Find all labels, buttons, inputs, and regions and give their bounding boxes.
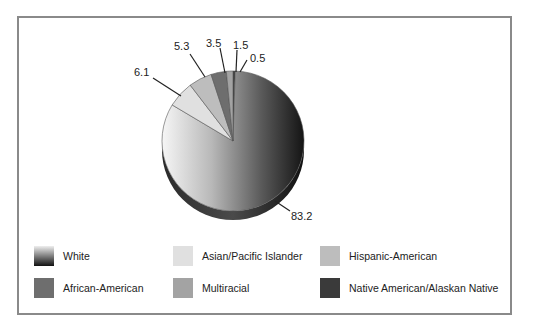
label-african: 3.5	[206, 37, 221, 49]
legend-item-asian: Asian/Pacific Islander	[173, 246, 302, 266]
legend-label: Multiracial	[202, 282, 249, 294]
legend-swatch-native	[320, 278, 340, 298]
legend-swatch-asian	[173, 246, 193, 266]
legend-label: Asian/Pacific Islander	[202, 250, 302, 262]
legend-label: Native American/Alaskan Native	[349, 282, 498, 294]
legend-label: African-American	[63, 282, 144, 294]
legend-item-african: African-American	[34, 278, 144, 298]
legend-swatch-white	[34, 246, 54, 266]
label-asian: 6.1	[134, 66, 149, 78]
pie-slices	[162, 71, 304, 211]
legend-label: Hispanic-American	[349, 250, 437, 262]
legend-swatch-african	[34, 278, 54, 298]
legend-swatch-multiracial	[173, 278, 193, 298]
label-hispanic: 5.3	[174, 40, 189, 52]
label-white: 83.2	[291, 210, 312, 222]
legend-item-multiracial: Multiracial	[173, 278, 249, 298]
label-native: 0.5	[250, 52, 265, 64]
legend-label: White	[63, 250, 90, 262]
legend-item-native: Native American/Alaskan Native	[320, 278, 498, 298]
legend-item-white: White	[34, 246, 90, 266]
legend-item-hispanic: Hispanic-American	[320, 246, 437, 266]
label-multiracial: 1.5	[233, 39, 248, 51]
legend-swatch-hispanic	[320, 246, 340, 266]
